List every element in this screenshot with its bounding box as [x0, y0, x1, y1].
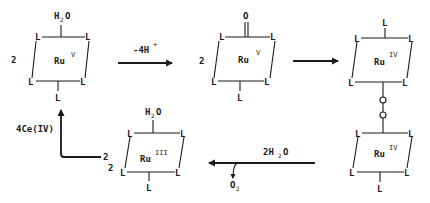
- bond-right: [179, 137, 184, 168]
- ligand-label: L: [354, 34, 360, 44]
- complex-ru-v-aqua: 2 H 2 O L L L L Ru V L: [11, 11, 91, 103]
- ligand-label: L: [127, 129, 133, 139]
- bond-left: [214, 41, 219, 78]
- axial-ligand-top: L: [382, 18, 388, 28]
- arrow-label-end: O: [283, 147, 289, 157]
- ligand-label: L: [219, 32, 225, 42]
- oxidation-state-label: V: [256, 49, 261, 57]
- axial-ligand-o: O: [156, 107, 162, 117]
- byproduct-sub: 2: [236, 185, 240, 192]
- arrow-label: 2H: [263, 147, 274, 157]
- oxo-ligand: O: [243, 11, 249, 21]
- bond-left: [32, 41, 36, 78]
- reaction-arrow: [61, 110, 101, 157]
- oxidation-state-label: IV: [389, 144, 398, 152]
- arrow-label-sub: 2: [278, 152, 282, 159]
- ligand-label: L: [175, 168, 181, 178]
- byproduct-arrow: [233, 163, 237, 178]
- bond-left: [125, 137, 130, 168]
- ligand-label: L: [402, 78, 408, 88]
- ligand-label: L: [211, 77, 217, 87]
- complex-ru-iv-dimer: L L L L L Ru IV L L L L Ru IV L: [348, 18, 414, 194]
- ligand-label: L: [120, 168, 126, 178]
- ligand-label: L: [264, 77, 270, 87]
- oxidation-state-label: III: [155, 149, 168, 157]
- axial-ligand-bottom: L: [377, 184, 383, 194]
- arrow-oxidation: 2 4Ce(IV): [16, 110, 108, 162]
- bridge-oxygen: [380, 97, 386, 103]
- ligand-label: L: [404, 168, 410, 178]
- bond-right: [85, 41, 89, 78]
- metal-label: Ru: [140, 154, 151, 164]
- metal-label: Ru: [374, 149, 385, 159]
- axial-ligand-sub: 2: [151, 112, 155, 119]
- ligand-label: L: [408, 34, 414, 44]
- metal-label: Ru: [374, 57, 385, 67]
- ligand-label: L: [180, 129, 186, 139]
- metal-label: Ru: [238, 55, 249, 65]
- ligand-label: L: [270, 32, 276, 42]
- bond-left: [353, 137, 358, 168]
- bond-right: [407, 42, 412, 78]
- reaction-cycle-diagram: 2 H 2 O L L L L Ru V L -4H + 2 O L L: [0, 0, 430, 203]
- arrow-label-sup: +: [153, 41, 157, 49]
- axial-ligand-h: H: [145, 107, 150, 117]
- arrow-label: 4Ce(IV): [16, 124, 54, 134]
- coefficient-label: 2: [199, 56, 204, 66]
- bridge-oxygen: [380, 112, 386, 118]
- axial-ligand-bottom: L: [146, 183, 152, 193]
- bond-left: [352, 42, 357, 78]
- axial-ligand-bottom: L: [55, 93, 61, 103]
- ligand-label: L: [408, 129, 414, 139]
- ligand-label: L: [348, 78, 354, 88]
- ligand-label: L: [355, 129, 361, 139]
- ligand-label: L: [28, 77, 34, 87]
- axial-ligand-bottom: L: [237, 93, 243, 103]
- axial-ligand-sub: 2: [60, 16, 64, 23]
- oxidation-state-label: IV: [389, 51, 398, 59]
- coefficient-label: 2: [11, 55, 16, 65]
- ligand-label: L: [349, 168, 355, 178]
- axial-ligand-h: H: [54, 11, 59, 21]
- bond-right: [407, 137, 412, 168]
- coefficient-label: 2: [108, 163, 113, 173]
- arrow-water-addition: 2H 2 O O 2: [209, 147, 315, 192]
- coefficient-label: 2: [103, 152, 108, 162]
- ligand-label: L: [85, 32, 91, 42]
- complex-ru-v-oxo: 2 O L L L L Ru V L: [199, 11, 276, 103]
- oxidation-state-label: V: [71, 51, 76, 59]
- metal-label: Ru: [54, 56, 65, 66]
- complex-ru-iii-aqua: 2 H 2 O L L L L Ru III L: [108, 107, 186, 193]
- ligand-label: L: [35, 32, 41, 42]
- ligand-label: L: [80, 77, 86, 87]
- arrow-deprotonation: -4H +: [118, 41, 172, 63]
- axial-ligand-o: O: [65, 11, 71, 21]
- bond-right: [270, 41, 275, 78]
- arrow-label: -4H: [133, 45, 149, 55]
